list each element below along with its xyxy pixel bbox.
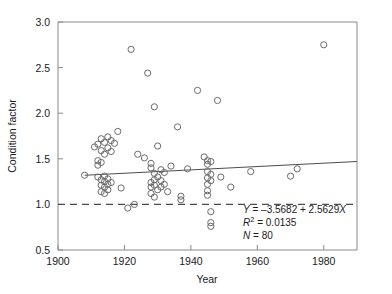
y-axis-title: Condition factor [6,99,18,173]
x-tick-label: 1900 [46,255,70,267]
data-point [158,178,164,184]
data-point [115,128,121,134]
data-point [105,134,111,140]
r-squared-line: R2 = 0.0135 [243,215,297,228]
regression-line [85,162,357,176]
data-point [321,42,327,48]
data-point [208,209,214,215]
data-point [98,147,104,153]
x-tick-label: 1980 [312,255,336,267]
data-point [208,223,214,229]
x-axis-title: Year [196,273,218,285]
data-point [135,151,141,157]
scatter-plot-figure: 19001920194019601980 0.51.01.52.02.53.0 … [0,0,392,294]
data-point [184,166,190,172]
data-points [81,42,326,230]
data-point [118,185,124,191]
data-point [178,197,184,203]
data-point [145,70,151,76]
data-point [194,87,200,93]
regression-annotation: Y = –3.5682 + 2.5629X R2 = 0.0135 N = 80 [243,204,346,241]
data-point [218,174,224,180]
y-tick-label: 1.0 [35,198,50,210]
data-point [128,46,134,52]
data-point [101,151,107,157]
data-point [168,163,174,169]
data-point [108,148,114,154]
data-point [228,184,234,190]
data-point [201,154,207,160]
axis-ticks [58,22,324,250]
x-tick-label: 1940 [179,255,203,267]
x-tick-label: 1960 [246,255,270,267]
plot-canvas: 19001920194019601980 0.51.01.52.02.53.0 … [0,0,392,294]
data-point [141,155,147,161]
data-point [151,194,157,200]
data-point [248,168,254,174]
y-tick-label: 2.0 [35,107,50,119]
data-point [148,190,154,196]
y-tick-label: 2.5 [35,62,50,74]
data-point [105,145,111,151]
sample-size-line: N = 80 [243,230,273,241]
data-point [214,97,220,103]
data-point [155,143,161,149]
data-point [204,192,210,198]
data-point [287,173,293,179]
y-tick-label: 0.5 [35,244,50,256]
x-tick-label: 1920 [113,255,137,267]
y-tick-labels: 0.51.01.52.02.53.0 [35,16,50,256]
data-point [175,124,181,130]
data-point [151,104,157,110]
y-tick-label: 1.5 [35,153,50,165]
data-point [125,205,131,211]
equation-line: Y = –3.5682 + 2.5629X [243,204,346,215]
data-point [294,166,300,172]
data-point [204,181,210,187]
y-tick-label: 3.0 [35,16,50,28]
data-point [98,136,104,142]
data-point [165,189,171,195]
x-tick-labels: 19001920194019601980 [46,255,335,267]
